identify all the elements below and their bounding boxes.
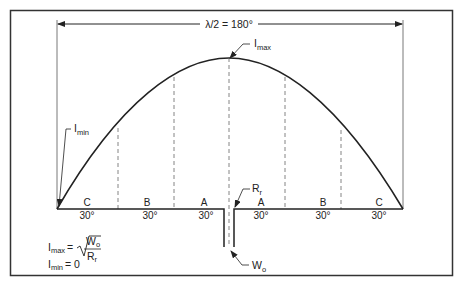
svg-text:Imax=: Imax= <box>48 241 73 255</box>
segment-angle: 30° <box>198 210 213 221</box>
svg-text:Wo: Wo <box>252 259 266 274</box>
svg-text:Rr: Rr <box>87 250 98 264</box>
imin-sub: min <box>77 128 89 137</box>
segment-letter: B <box>320 197 327 208</box>
imax-callout: Imax <box>230 37 271 58</box>
segment-letter: C <box>83 197 90 208</box>
segment-letter: C <box>375 197 382 208</box>
segment-letter: B <box>144 197 151 208</box>
formula-imax-sub: max <box>51 246 65 255</box>
half-wave-dipole-current-diagram: λ/2 = 180° C B A A B C 30° 30° 30° 30° 3… <box>0 0 460 286</box>
span-dimension: λ/2 = 180° <box>57 18 403 209</box>
formula-numerator: W <box>86 235 96 247</box>
imax-sub: max <box>257 43 271 52</box>
segment-angle: 30° <box>253 210 268 221</box>
wo-label: W <box>252 259 262 271</box>
rr-sub: r <box>260 188 263 197</box>
segment-letter: A <box>258 197 265 208</box>
span-label: λ/2 = 180° <box>205 18 253 30</box>
segment-angles: 30° 30° 30° 30° 30° 30° <box>79 210 386 221</box>
segment-angle: 30° <box>315 210 330 221</box>
wo-callout: Wo <box>231 251 266 274</box>
formula-denominator-sub: r <box>95 255 98 264</box>
segment-letters: C B A A B C <box>83 197 382 208</box>
svg-text:Imin= 0: Imin= 0 <box>48 258 80 272</box>
segment-angle: 30° <box>142 210 157 221</box>
segment-letter: A <box>201 197 208 208</box>
svg-text:Imin: Imin <box>74 122 89 137</box>
frame-border <box>11 11 453 276</box>
formula-numerator-sub: o <box>96 240 100 249</box>
svg-text:Rr: Rr <box>252 182 263 197</box>
svg-text:Wo: Wo <box>86 235 100 249</box>
formula-equals: = <box>67 241 73 253</box>
current-curve <box>57 58 403 209</box>
formula-block: Imax= Wo Rr Imin= 0 <box>48 235 101 272</box>
dipole-antenna <box>57 209 403 247</box>
wo-sub: o <box>262 265 266 274</box>
formula-imin-sub: min <box>51 263 63 272</box>
svg-text:Imax: Imax <box>254 37 271 52</box>
formula-imin-value: = 0 <box>65 258 80 270</box>
segment-angle: 30° <box>79 210 94 221</box>
segment-angle: 30° <box>371 210 386 221</box>
